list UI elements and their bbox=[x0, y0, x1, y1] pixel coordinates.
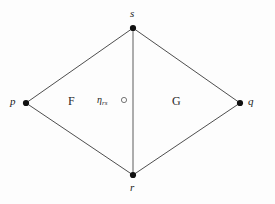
vertex-label-p: p bbox=[10, 96, 16, 107]
diagram-svg bbox=[0, 0, 275, 204]
figure-canvas: s p q r F G ηrs bbox=[0, 0, 275, 204]
vertex-p[interactable] bbox=[23, 100, 29, 106]
face-label-g: G bbox=[172, 95, 181, 107]
vertex-r[interactable] bbox=[130, 172, 136, 178]
edge-s-q bbox=[133, 28, 240, 103]
edge-p-s bbox=[26, 28, 133, 103]
eta-rs-label: ηrs bbox=[97, 95, 107, 105]
edge-q-r bbox=[133, 103, 240, 175]
eta-marker-circle bbox=[121, 97, 126, 102]
edge-r-p bbox=[26, 103, 133, 175]
vertex-label-s: s bbox=[130, 8, 134, 19]
vertex-s[interactable] bbox=[130, 25, 136, 31]
vertex-label-q: q bbox=[248, 96, 254, 107]
vertex-label-r: r bbox=[130, 182, 134, 193]
face-label-f: F bbox=[68, 95, 75, 107]
vertex-q[interactable] bbox=[237, 100, 243, 106]
eta-subscript: rs bbox=[102, 99, 107, 107]
